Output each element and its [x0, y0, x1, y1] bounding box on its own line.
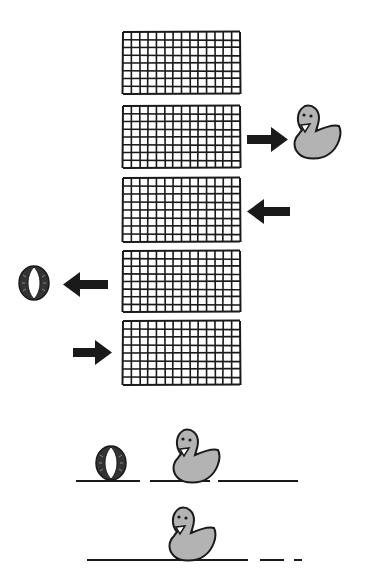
timeline-2: [87, 508, 302, 561]
arrow-left-icon: [63, 272, 108, 297]
arrow-left-icon: [247, 199, 290, 224]
grid-panel-4: [123, 251, 241, 312]
duck-icon: [170, 508, 216, 561]
wheel-icon: [19, 266, 49, 300]
grid-panel-3: [123, 178, 241, 242]
arrow-right-icon: [247, 127, 288, 152]
grid-panel-1: [123, 32, 241, 94]
duck-icon: [174, 430, 220, 483]
grid-panel-5: [123, 321, 241, 385]
diagram-canvas: [0, 0, 369, 582]
wheel-icon: [96, 446, 126, 480]
arrow-right-icon: [73, 340, 112, 365]
duck-icon: [295, 106, 341, 159]
grid-panel-2: [123, 106, 241, 168]
timeline-1: [76, 430, 298, 483]
